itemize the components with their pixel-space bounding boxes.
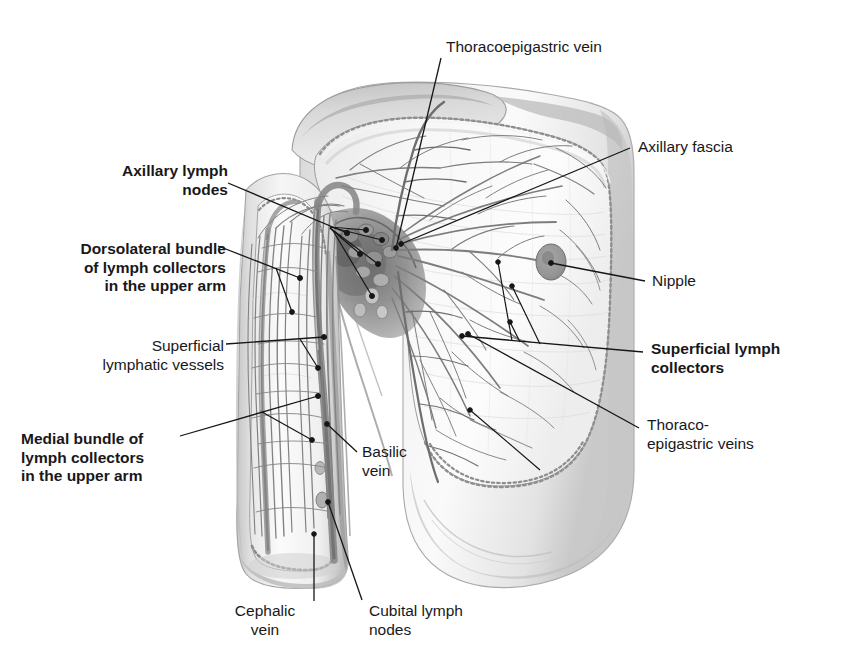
label-superficial-lymph-collectors: Superficial lymph collectors [651,340,780,377]
label-cubital-lymph-nodes: Cubital lymph nodes [369,602,463,639]
label-thoraco-epigastric-veins: Thoraco- epigastric veins [647,416,754,453]
illustration-svg [0,0,841,665]
label-superficial-lymphatic-vessels: Superficial lymphatic vessels [0,337,224,374]
label-axillary-lymph-nodes: Axillary lymph nodes [0,162,228,199]
label-nipple: Nipple [652,272,696,291]
label-axillary-fascia: Axillary fascia [638,138,733,157]
label-medial-bundle: Medial bundle of lymph collectors in the… [21,430,241,486]
label-dorsolateral-bundle: Dorsolateral bundle of lymph collectors … [0,240,226,296]
label-cephalic-vein: Cephalic vein [210,602,320,639]
anatomical-figure: Axillary lymph nodes Dorsolateral bundle… [0,0,841,665]
label-thoracoepigastric-vein: Thoracoepigastric vein [446,38,602,57]
label-basilic-vein: Basilic vein [362,443,407,480]
